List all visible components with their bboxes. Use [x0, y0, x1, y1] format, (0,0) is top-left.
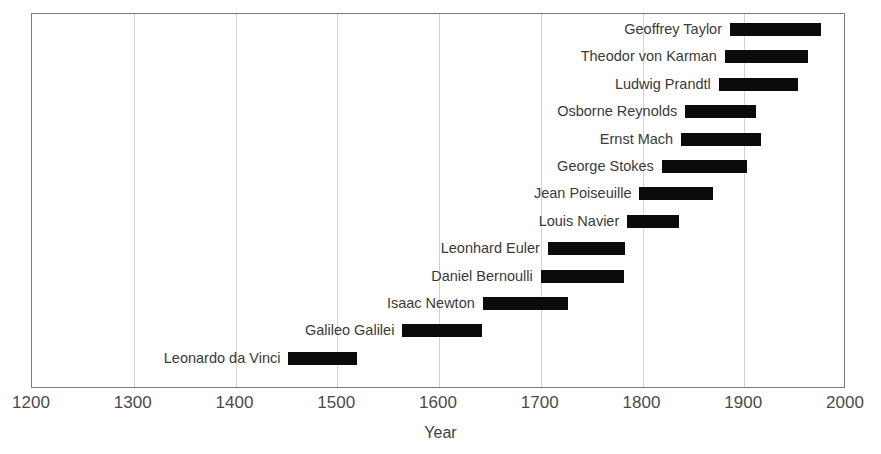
bar-row[interactable]: Theodor von Karman — [32, 46, 844, 68]
x-tick-label-1900: 1900 — [724, 393, 762, 413]
bar-label: George Stokes — [557, 157, 654, 175]
x-axis-label: Year — [0, 424, 881, 442]
x-tick-label-1500: 1500 — [317, 393, 355, 413]
bar-label: Louis Navier — [539, 212, 620, 230]
bar-row[interactable]: Osborne Reynolds — [32, 101, 844, 123]
bar[interactable] — [685, 105, 756, 118]
bar[interactable] — [483, 297, 568, 310]
bar-row[interactable]: Louis Navier — [32, 211, 844, 233]
bar-row[interactable]: Galileo Galilei — [32, 320, 844, 342]
bar[interactable] — [541, 270, 624, 283]
lifespan-gantt-chart: Geoffrey TaylorTheodor von KarmanLudwig … — [0, 0, 881, 454]
bar[interactable] — [662, 160, 747, 173]
x-tick-label-1600: 1600 — [419, 393, 457, 413]
bar[interactable] — [681, 133, 760, 146]
bar-row[interactable]: Geoffrey Taylor — [32, 19, 844, 41]
bar-label: Theodor von Karman — [581, 47, 717, 65]
bar-label: Daniel Bernoulli — [431, 267, 533, 285]
bar-label: Ernst Mach — [600, 130, 673, 148]
bar[interactable] — [639, 187, 712, 200]
x-tick-label-1200: 1200 — [12, 393, 50, 413]
bar-label: Leonardo da Vinci — [164, 349, 281, 367]
bar-label: Galileo Galilei — [305, 321, 394, 339]
bar-label: Jean Poiseuille — [534, 184, 632, 202]
bar-label: Geoffrey Taylor — [624, 20, 722, 38]
plot-area: Geoffrey TaylorTheodor von KarmanLudwig … — [31, 13, 845, 388]
bar[interactable] — [730, 23, 821, 36]
bar-row[interactable]: Leonhard Euler — [32, 238, 844, 260]
bar-row[interactable]: Daniel Bernoulli — [32, 266, 844, 288]
bar[interactable] — [288, 352, 356, 365]
bar[interactable] — [725, 50, 808, 63]
bar-label: Osborne Reynolds — [557, 102, 677, 120]
bar-row[interactable]: Ludwig Prandtl — [32, 74, 844, 96]
bar-row[interactable]: Ernst Mach — [32, 129, 844, 151]
x-tick-label-1800: 1800 — [623, 393, 661, 413]
bar-label: Isaac Newton — [387, 294, 475, 312]
bar-label: Ludwig Prandtl — [615, 75, 711, 93]
x-tick-label-2000: 2000 — [826, 393, 864, 413]
bar-row[interactable]: George Stokes — [32, 156, 844, 178]
bar[interactable] — [627, 215, 679, 228]
x-tick-label-1700: 1700 — [521, 393, 559, 413]
x-tick-label-1300: 1300 — [114, 393, 152, 413]
x-tick-label-1400: 1400 — [216, 393, 254, 413]
bar[interactable] — [402, 324, 481, 337]
bar[interactable] — [719, 78, 798, 91]
bar-row[interactable]: Leonardo da Vinci — [32, 348, 844, 370]
bar-row[interactable]: Isaac Newton — [32, 293, 844, 315]
bar-row[interactable]: Jean Poiseuille — [32, 183, 844, 205]
bar-label: Leonhard Euler — [441, 239, 540, 257]
bar[interactable] — [548, 242, 625, 255]
